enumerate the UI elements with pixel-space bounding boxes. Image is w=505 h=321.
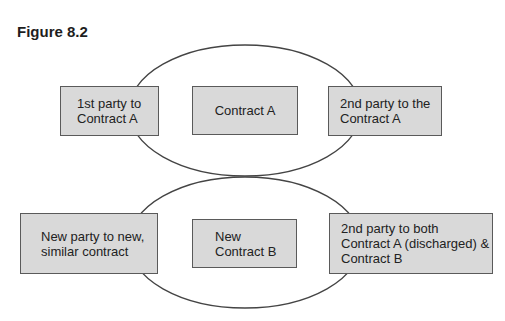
second-party-both-contracts-box: 2nd party to both Contract A (discharged… — [329, 213, 493, 274]
box-line: Contract B — [341, 251, 489, 266]
box-line: 2nd party to both — [341, 221, 489, 236]
box-line: New party to new, — [41, 229, 144, 244]
box-line: Contract A — [215, 103, 276, 118]
second-party-contract-a-box: 2nd party to the Contract A — [328, 86, 442, 136]
first-party-contract-a-box: 1st party to Contract A — [60, 86, 159, 136]
new-party-box: New party to new, similar contract — [20, 213, 158, 274]
box-line: New — [215, 229, 276, 244]
box-line: Contract A — [340, 111, 430, 126]
box-line: Contract B — [215, 244, 276, 259]
box-line: Contract A — [77, 111, 141, 126]
contract-a-box: Contract A — [192, 86, 298, 135]
box-line: similar contract — [41, 244, 144, 259]
box-line: 2nd party to the — [340, 96, 430, 111]
new-contract-b-box: New Contract B — [192, 219, 297, 268]
box-line: 1st party to — [77, 96, 141, 111]
box-line: Contract A (discharged) & — [341, 236, 489, 251]
